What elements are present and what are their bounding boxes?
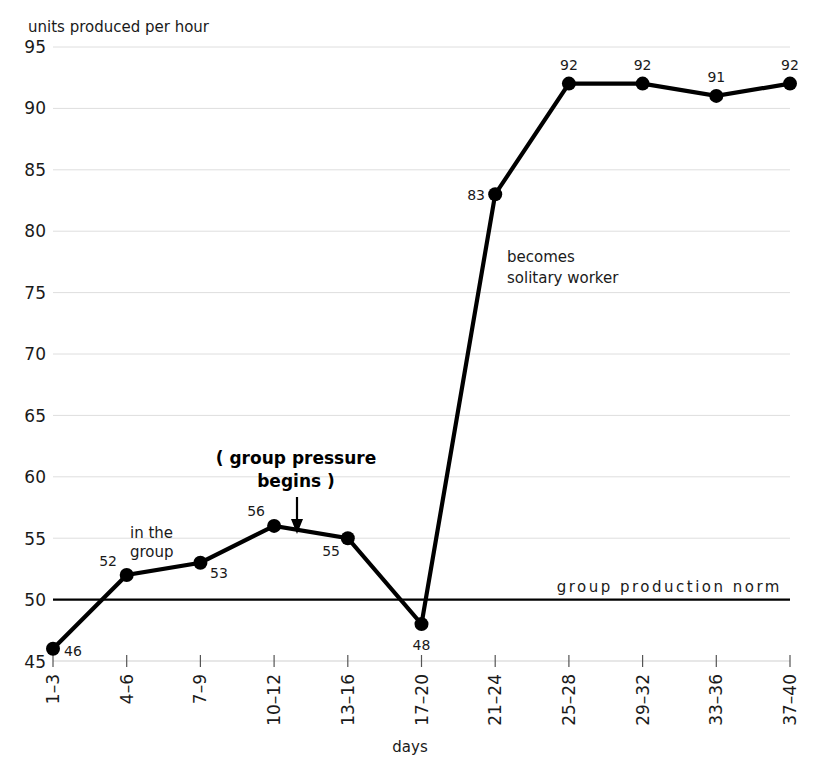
data-point-10 [783,77,797,91]
data-label-6: 83 [467,187,485,203]
chart-svg: units produced per hour 95 90 85 80 75 7… [0,0,819,776]
data-label-9: 91 [707,69,725,85]
x-tick-7: 25–28 [559,674,579,726]
annotation-group-pressure-line1: ( group pressure [216,448,376,468]
y-tick-65: 65 [24,406,46,426]
annotation-in-the-group-line1: in the [130,524,173,542]
y-tick-90: 90 [24,98,46,118]
y-tick-60: 60 [24,467,46,487]
data-point-8 [636,77,650,91]
y-tick-55: 55 [24,529,46,549]
x-tick-10: 37–40 [780,674,800,726]
annotation-in-the-group: in the group [130,524,174,561]
x-tick-9: 33–36 [706,674,726,726]
chart-background [0,0,819,776]
data-point-2 [193,556,207,570]
y-tick-50: 50 [24,590,46,610]
data-point-1 [120,568,134,582]
data-point-5 [415,617,429,631]
y-tick-70: 70 [24,344,46,364]
y-tick-80: 80 [24,221,46,241]
annotation-solitary-line2: solitary worker [507,269,619,287]
y-tick-45: 45 [24,652,46,672]
data-label-0: 46 [64,643,82,659]
data-label-1: 52 [99,553,117,569]
data-label-3: 56 [247,503,265,519]
data-point-9 [709,89,723,103]
data-point-0 [46,642,60,656]
y-tick-85: 85 [24,160,46,180]
x-tick-4: 13–16 [338,674,358,726]
data-label-5: 48 [413,637,431,653]
x-tick-0: 1–3 [43,674,63,704]
x-tick-8: 29–32 [633,674,653,726]
annotation-group-pressure-line2: begins ) [257,471,335,491]
x-tick-3: 10–12 [264,674,284,726]
production-line-chart: units produced per hour 95 90 85 80 75 7… [0,0,819,776]
data-label-4: 55 [322,543,340,559]
data-label-10: 92 [781,57,799,73]
data-point-7 [562,77,576,91]
x-tick-5: 17–20 [412,674,432,726]
x-axis-caption: days [392,738,428,756]
data-label-7: 92 [560,57,578,73]
annotation-in-the-group-line2: group [130,543,174,561]
annotation-solitary-line1: becomes [507,248,575,266]
x-tick-6: 21–24 [485,674,505,726]
data-point-4 [341,531,355,545]
group-production-norm-label: group production norm [557,578,782,596]
x-tick-1: 4–6 [117,674,137,704]
data-point-3 [267,519,281,533]
y-tick-75: 75 [24,283,46,303]
y-axis-title: units produced per hour [28,18,210,36]
data-point-6 [488,187,502,201]
data-label-2: 53 [210,565,228,581]
y-tick-95: 95 [24,37,46,57]
x-tick-2: 7–9 [190,674,210,704]
data-label-8: 92 [634,57,652,73]
